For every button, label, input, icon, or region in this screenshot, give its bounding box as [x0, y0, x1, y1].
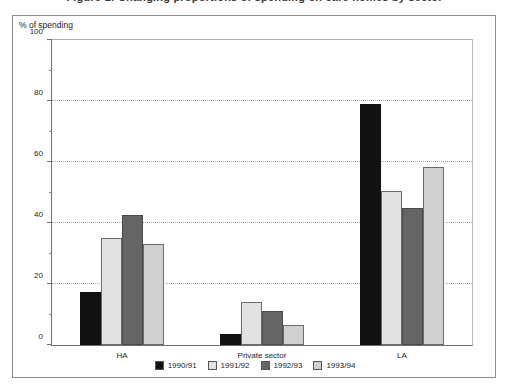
x-axis-label-ha: HA — [116, 351, 127, 360]
bar-la-1990-91[interactable] — [360, 104, 381, 345]
bar-group-ha — [80, 40, 164, 345]
bar-ha-1991-92[interactable] — [101, 238, 122, 345]
chart-frame: % of spending 020406080100 HAPrivate sec… — [12, 15, 496, 378]
y-axis-label-60: 60 — [34, 149, 43, 158]
chart-legend: 1990/911991/921992/931993/94 — [13, 361, 497, 370]
legend-swatch-icon-1992-93 — [261, 361, 270, 370]
legend-label: 1990/91 — [168, 361, 197, 370]
y-tick-major-20 — [47, 283, 52, 284]
bar-group-private-sector — [220, 40, 304, 345]
bar-private-sector-1990-91[interactable] — [220, 334, 241, 345]
bar-la-1992-93[interactable] — [402, 208, 423, 345]
bar-ha-1992-93[interactable] — [122, 215, 143, 345]
legend-swatch-icon-1990-91 — [155, 361, 164, 370]
figure-title: Figure 1: Changing proportions of spendi… — [0, 0, 509, 5]
y-tick-minor-90 — [49, 70, 52, 71]
legend-item-1992-93[interactable]: 1992/93 — [261, 361, 303, 370]
y-axis-label-0: 0 — [39, 332, 43, 341]
y-tick-major-40 — [47, 222, 52, 223]
y-tick-major-0 — [47, 344, 52, 345]
y-axis-label-20: 20 — [34, 271, 43, 280]
y-tick-major-80 — [47, 100, 52, 101]
bar-private-sector-1991-92[interactable] — [241, 302, 262, 345]
legend-item-1990-91[interactable]: 1990/91 — [155, 361, 197, 370]
legend-label: 1993/94 — [326, 361, 355, 370]
legend-item-1993-94[interactable]: 1993/94 — [313, 361, 355, 370]
y-axis-label-100: 100 — [30, 27, 43, 36]
y-axis-label-80: 80 — [34, 88, 43, 97]
y-tick-minor-70 — [49, 131, 52, 132]
bar-la-1993-94[interactable] — [423, 167, 444, 345]
y-axis-label-40: 40 — [34, 210, 43, 219]
y-tick-minor-50 — [49, 192, 52, 193]
y-tick-minor-30 — [49, 253, 52, 254]
legend-label: 1992/93 — [274, 361, 303, 370]
legend-item-1991-92[interactable]: 1991/92 — [208, 361, 250, 370]
bar-ha-1990-91[interactable] — [80, 292, 101, 345]
legend-label: 1991/92 — [221, 361, 250, 370]
legend-swatch-icon-1993-94 — [313, 361, 322, 370]
y-tick-major-60 — [47, 161, 52, 162]
x-axis-label-la: LA — [397, 351, 407, 360]
y-tick-minor-10 — [49, 314, 52, 315]
y-axis-caption: % of spending — [19, 20, 73, 30]
bar-private-sector-1993-94[interactable] — [283, 325, 304, 345]
plot-area: 020406080100 HAPrivate sectorLA — [51, 39, 473, 346]
bar-la-1991-92[interactable] — [381, 191, 402, 345]
x-axis-label-private-sector: Private sector — [238, 351, 287, 360]
bar-group-la — [360, 40, 444, 345]
legend-swatch-icon-1991-92 — [208, 361, 217, 370]
y-tick-major-100 — [47, 39, 52, 40]
bar-private-sector-1992-93[interactable] — [262, 311, 283, 345]
bar-ha-1993-94[interactable] — [143, 244, 164, 345]
